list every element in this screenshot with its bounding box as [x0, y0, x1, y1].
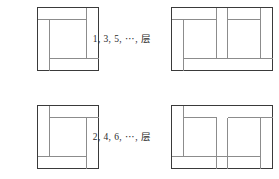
double-pinwheel-even-svg	[170, 104, 274, 170]
double-pinwheel-odd-svg	[170, 6, 274, 72]
even-layer-row: 2, 4, 6, ⋯, 层	[0, 104, 279, 176]
double-pinwheel-even-figure	[170, 104, 274, 170]
double-pinwheel-odd-figure	[170, 6, 274, 72]
odd-layer-label: 1, 3, 5, ⋯, 层	[84, 32, 160, 46]
diagram-page: 1, 3, 5, ⋯, 层	[0, 0, 279, 179]
even-layer-label: 2, 4, 6, ⋯, 层	[84, 130, 160, 144]
odd-layer-row: 1, 3, 5, ⋯, 层	[0, 6, 279, 78]
